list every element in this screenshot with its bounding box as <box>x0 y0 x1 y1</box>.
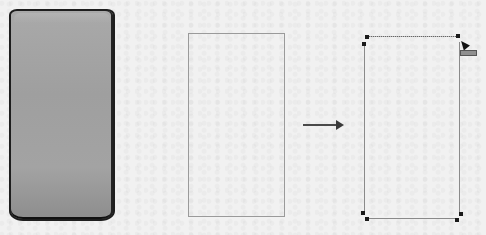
arrow-right-icon <box>303 124 337 126</box>
resize-handle-bottom-right-inner[interactable] <box>455 218 459 222</box>
resize-handle-bottom-right[interactable] <box>459 212 463 216</box>
resize-handle-bottom-left[interactable] <box>361 211 365 215</box>
selected-rectangle-left-edge <box>364 42 365 213</box>
selected-rectangle[interactable] <box>364 36 460 219</box>
selected-rectangle-top-edge <box>369 36 460 37</box>
resize-handle-top-right[interactable] <box>456 34 460 38</box>
resize-handle-top-left-inner[interactable] <box>362 42 366 46</box>
selected-rectangle-right-edge <box>459 42 460 213</box>
resize-handle-top-left[interactable] <box>365 35 369 39</box>
phone-shape[interactable] <box>9 9 115 221</box>
plain-rectangle[interactable] <box>188 33 285 217</box>
cursor-tooltip <box>460 50 477 56</box>
selected-rectangle-bottom-edge <box>369 218 457 219</box>
resize-handle-bottom-left-inner[interactable] <box>365 217 369 221</box>
arrow-head-icon <box>336 120 344 130</box>
